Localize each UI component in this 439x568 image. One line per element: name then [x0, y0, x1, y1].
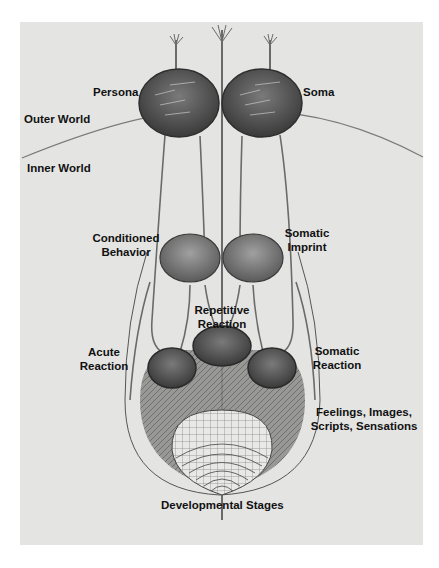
label-outer-world: Outer World — [24, 112, 90, 126]
label-line: Reaction — [310, 358, 364, 372]
label-feelings-images-scripts-sensations: Feelings, Images, Scripts, Sensations — [306, 405, 422, 433]
label-line: Repetitive — [190, 303, 254, 317]
acute-reaction-node — [148, 348, 196, 388]
label-conditioned-behavior: Conditioned Behavior — [88, 231, 164, 259]
soma-node — [222, 69, 302, 137]
label-acute-reaction: Acute Reaction — [76, 345, 132, 373]
label-line: Reaction — [76, 359, 132, 373]
label-line: Acute — [76, 345, 132, 359]
dendrite-tufts — [170, 25, 277, 45]
label-line: Somatic — [282, 226, 332, 240]
label-developmental-stages: Developmental Stages — [161, 498, 284, 512]
label-persona: Persona — [93, 85, 138, 99]
repetitive-reaction-node — [193, 326, 251, 366]
somatic-reaction-node — [248, 348, 296, 388]
label-line: Feelings, Images, — [306, 405, 422, 419]
diagram-art — [0, 0, 439, 568]
label-inner-world: Inner World — [27, 161, 91, 175]
label-line: Behavior — [88, 245, 164, 259]
label-somatic-reaction: Somatic Reaction — [310, 344, 364, 372]
developmental-stages-node — [172, 410, 272, 495]
persona-node — [139, 69, 219, 137]
conditioned-behavior-node — [160, 234, 220, 282]
label-line: Scripts, Sensations — [306, 419, 422, 433]
label-line: Reaction — [190, 317, 254, 331]
somatic-imprint-node — [223, 234, 283, 282]
label-somatic-imprint: Somatic Imprint — [282, 226, 332, 254]
label-soma: Soma — [303, 85, 334, 99]
label-repetitive-reaction: Repetitive Reaction — [190, 303, 254, 331]
label-line: Imprint — [282, 240, 332, 254]
label-line: Somatic — [310, 344, 364, 358]
label-line: Conditioned — [88, 231, 164, 245]
